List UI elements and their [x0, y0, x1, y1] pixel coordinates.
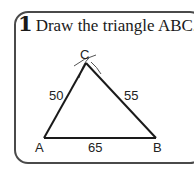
- vertex-label-c: C: [80, 48, 89, 62]
- side-bc: [86, 63, 156, 138]
- construction-arc-c: [91, 62, 101, 74]
- side-length-bc: 55: [124, 89, 138, 103]
- vertex-label-b: B: [153, 141, 162, 155]
- side-length-ab: 65: [88, 141, 102, 155]
- vertex-label-a: A: [35, 141, 44, 155]
- side-length-ac: 50: [49, 89, 63, 103]
